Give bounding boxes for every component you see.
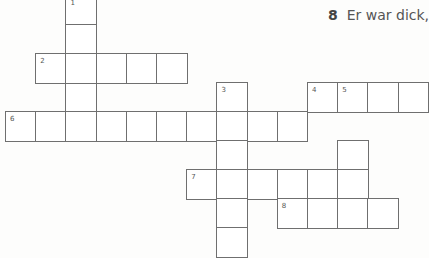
crossword-cell[interactable]: 2: [35, 53, 67, 84]
crossword-cell[interactable]: [156, 53, 188, 84]
crossword-cell[interactable]: [65, 24, 97, 55]
crossword-cell[interactable]: [156, 111, 188, 142]
cell-number: 5: [342, 86, 346, 94]
crossword-cell[interactable]: [247, 111, 279, 142]
cell-number: 6: [10, 115, 14, 123]
crossword-cell[interactable]: 1: [65, 0, 97, 26]
crossword-cell[interactable]: [65, 111, 97, 142]
crossword-cell[interactable]: [247, 169, 279, 200]
crossword-cell[interactable]: [216, 111, 248, 142]
crossword-cell[interactable]: [65, 53, 97, 84]
crossword-cell[interactable]: [337, 198, 369, 229]
crossword-cell[interactable]: [398, 82, 429, 113]
crossword-cell[interactable]: 6: [5, 111, 37, 142]
crossword-cell[interactable]: [216, 140, 248, 171]
crossword-cell[interactable]: 7: [186, 169, 218, 200]
cell-number: 8: [282, 202, 286, 210]
cell-number: 7: [191, 173, 195, 181]
crossword-cell[interactable]: 3: [216, 82, 248, 113]
crossword-cell[interactable]: [96, 111, 128, 142]
crossword-cell[interactable]: [307, 198, 339, 229]
crossword-cell[interactable]: 5: [337, 82, 369, 113]
clue-8: 8Er war dick,: [328, 7, 429, 23]
crossword-cell[interactable]: [65, 82, 97, 113]
clue-number: 8: [328, 7, 338, 23]
crossword-cell[interactable]: [337, 169, 369, 200]
crossword-cell[interactable]: 8: [277, 198, 309, 229]
cell-number: 4: [312, 86, 316, 94]
crossword-cell[interactable]: [96, 53, 128, 84]
crossword-cell[interactable]: [337, 140, 369, 171]
crossword-cell[interactable]: [126, 53, 158, 84]
crossword-cell[interactable]: [307, 169, 339, 200]
crossword-cell[interactable]: [35, 111, 67, 142]
cell-number: 2: [40, 57, 44, 65]
cell-number: 1: [70, 0, 74, 7]
cell-number: 3: [221, 86, 225, 94]
crossword-cell[interactable]: [277, 169, 309, 200]
crossword-cell[interactable]: [216, 169, 248, 200]
clue-text: Er war dick,: [347, 7, 429, 23]
crossword-cell[interactable]: 4: [307, 82, 339, 113]
crossword-cell[interactable]: [216, 198, 248, 229]
crossword-cell[interactable]: [186, 111, 218, 142]
crossword-cell[interactable]: [126, 111, 158, 142]
crossword-cell[interactable]: [367, 198, 399, 229]
crossword-cell[interactable]: [367, 82, 399, 113]
crossword-cell[interactable]: [216, 227, 248, 258]
crossword-cell[interactable]: [277, 111, 309, 142]
